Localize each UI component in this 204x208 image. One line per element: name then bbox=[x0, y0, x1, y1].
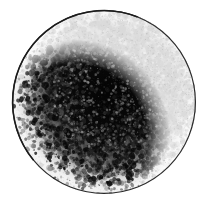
micrograph-figure bbox=[0, 0, 204, 208]
specimen-micrograph-image bbox=[0, 0, 204, 208]
